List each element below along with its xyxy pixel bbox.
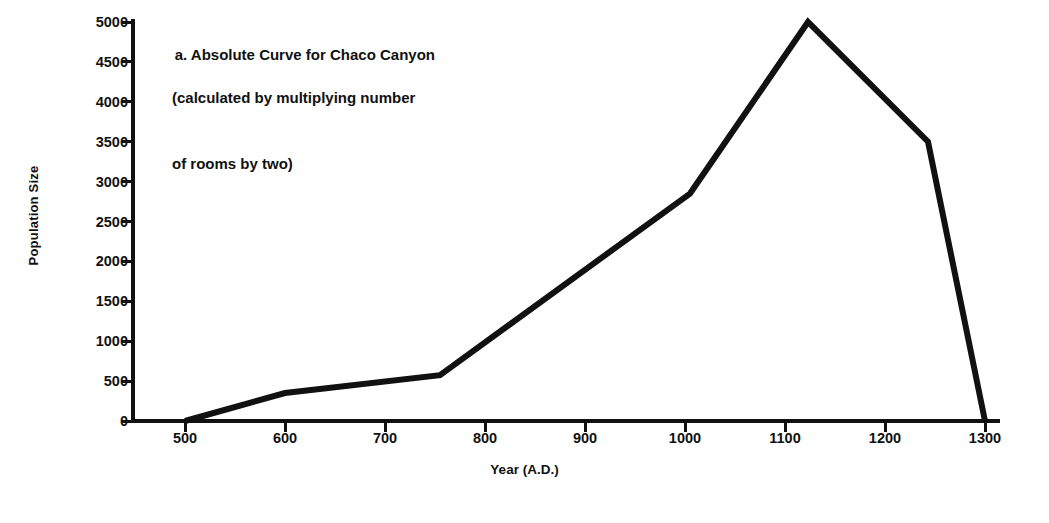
y-tick-label: 1500	[66, 293, 128, 309]
y-tick-label: 2000	[66, 253, 128, 269]
x-tick-label: 1200	[850, 430, 920, 446]
y-axis-tick-labels: 0500100015002000250030003500400045005000	[0, 0, 128, 523]
x-tick-label: 1100	[750, 430, 820, 446]
y-tick-label: 4000	[66, 94, 128, 110]
chart-figure: a. Absolute Curve for Chaco Canyon (calc…	[0, 0, 1049, 523]
chart-title-line-1: a. Absolute Curve for Chaco Canyon	[175, 46, 435, 63]
x-tick-label: 800	[450, 430, 520, 446]
y-tick-label: 2500	[66, 214, 128, 230]
chart-title-line-3: of rooms by two)	[158, 153, 435, 175]
y-tick-label: 3500	[66, 134, 128, 150]
x-tick-label: 1000	[650, 430, 720, 446]
y-tick-label: 3000	[66, 174, 128, 190]
y-tick-label: 500	[66, 373, 128, 389]
x-tick-label: 1300	[950, 430, 1020, 446]
chart-title-line-2: (calculated by multiplying number	[158, 87, 435, 109]
x-tick-label: 600	[250, 430, 320, 446]
y-tick-label: 1000	[66, 333, 128, 349]
y-tick-label: 5000	[66, 14, 128, 30]
x-tick-label: 700	[350, 430, 420, 446]
chart-title: a. Absolute Curve for Chaco Canyon (calc…	[158, 22, 435, 218]
y-tick-label: 4500	[66, 54, 128, 70]
x-tick-label: 900	[550, 430, 620, 446]
x-tick-label: 500	[150, 430, 220, 446]
x-axis-title: Year (A.D.)	[0, 462, 1049, 477]
y-tick-label: 0	[66, 413, 128, 429]
